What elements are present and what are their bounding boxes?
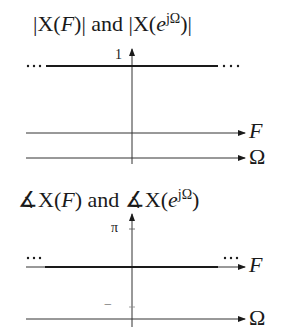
magnitude-y-tick-1: 1 [115,48,122,62]
phase-f-axis-label: F [249,254,262,276]
phase-plot [26,214,245,327]
continuation-dots-right [223,65,239,67]
magnitude-omega-axis-label: Ω [249,146,265,168]
magnitude-plot [26,49,245,164]
continuation-dots-left [27,257,41,259]
magnitude-f-axis-label: F [249,120,262,142]
phase-y-tick-pi: π [111,221,118,235]
continuation-dots-left [27,65,41,67]
continuation-dots-right [224,257,238,259]
phase-omega-axis-label: Ω [249,307,265,327]
phase-y-tick-neg: − [104,298,112,312]
